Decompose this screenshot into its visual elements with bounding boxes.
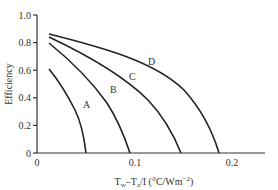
y-axis-label: Efficiency [3, 63, 14, 104]
curve-A [49, 69, 86, 153]
y-tick-label: 0.2 [19, 120, 32, 131]
curve-label-A: A [83, 99, 91, 110]
curve-label-D: D [148, 56, 155, 67]
curve-C [49, 37, 181, 153]
curve-D [49, 34, 219, 153]
y-tick-label: 0.8 [19, 37, 32, 48]
x-tick-label: 0 [35, 157, 40, 168]
y-tick-label: 1.0 [19, 10, 32, 21]
x-tick-label: 0.1 [129, 157, 142, 168]
x-ticks: 0 0.1 0.2 [35, 157, 239, 168]
curve-B [49, 43, 130, 153]
efficiency-chart: 0 0.2 0.4 0.6 0.8 1.0 0 0.1 0.2 Efficien… [0, 0, 278, 190]
x-axis-label: Tw–Ta/I (°C/Wm−2) [115, 175, 194, 189]
y-tick-label: 0 [26, 148, 31, 159]
y-tick-label: 0.4 [19, 92, 32, 103]
curve-label-C: C [129, 71, 136, 82]
y-tick-label: 0.6 [19, 65, 32, 76]
curve-label-B: B [110, 84, 117, 95]
y-ticks: 0 0.2 0.4 0.6 0.8 1.0 [19, 10, 38, 159]
x-tick-label: 0.2 [226, 157, 239, 168]
